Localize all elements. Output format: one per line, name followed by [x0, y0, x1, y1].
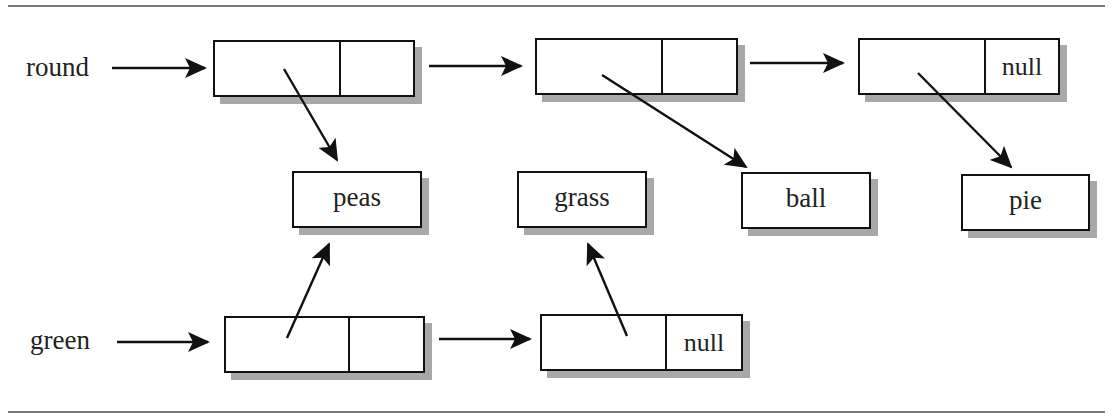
value-box-peas: peas	[292, 171, 422, 228]
green-node-2: null	[540, 314, 743, 371]
data-cell	[537, 40, 663, 93]
value-box-ball: ball	[741, 172, 871, 229]
data-cell	[226, 318, 350, 371]
value-box-grass: grass	[517, 171, 647, 228]
next-cell-null: null	[986, 40, 1058, 93]
round-node-2	[535, 38, 738, 95]
data-cell	[542, 316, 667, 369]
data-cell	[860, 40, 986, 93]
next-cell	[663, 40, 736, 93]
round-label: round	[26, 54, 89, 81]
green-node-1	[224, 316, 425, 373]
next-cell	[350, 318, 423, 371]
next-cell-null: null	[667, 316, 741, 369]
value-box-pie: pie	[961, 174, 1090, 231]
round-node-1	[213, 40, 415, 97]
bottom-rule	[8, 411, 1105, 413]
green-label: green	[30, 327, 90, 354]
round-node-3: null	[858, 38, 1060, 95]
top-rule	[8, 5, 1105, 7]
data-cell	[215, 42, 341, 95]
next-cell	[341, 42, 413, 95]
